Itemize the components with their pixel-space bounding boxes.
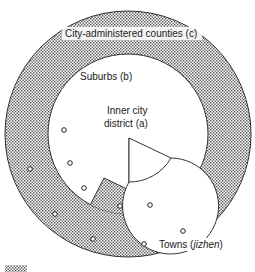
town-icon — [62, 128, 67, 133]
towns-label: Towns (jizhen) — [159, 239, 223, 250]
town-icon — [118, 204, 123, 209]
town-icon — [82, 186, 87, 191]
town-icon — [53, 212, 58, 217]
town-icon — [28, 167, 33, 172]
legend-swatch — [5, 265, 27, 272]
town-icon — [91, 237, 96, 242]
suburbs-label: Suburbs (b) — [80, 71, 132, 82]
counties-label: City-administered counties (c) — [65, 28, 197, 39]
inner-city-label-1: Inner city — [107, 105, 148, 116]
town-icon — [148, 203, 153, 208]
town-icon — [142, 242, 147, 247]
town-icon — [68, 161, 73, 166]
town-icon — [181, 229, 186, 234]
inner-city-label-2: district (a) — [104, 118, 148, 129]
zone-diagram: City-administered counties (c) Suburbs (… — [0, 0, 255, 272]
